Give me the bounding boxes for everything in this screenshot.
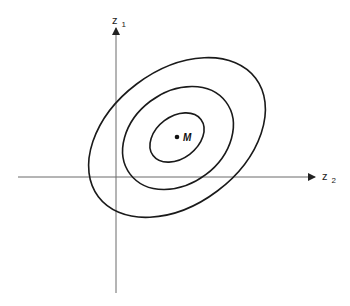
center-label-m: M bbox=[183, 132, 192, 143]
z2-label-sub: 2 bbox=[332, 176, 337, 185]
center-point-dot bbox=[175, 135, 180, 140]
contour-diagram: M z 1 z 2 bbox=[0, 0, 350, 306]
z2-label: z 2 bbox=[322, 170, 337, 185]
z1-label: z 1 bbox=[112, 14, 127, 29]
z2-label-main: z bbox=[322, 170, 328, 182]
z1-label-main: z bbox=[112, 14, 118, 26]
z1-label-sub: 1 bbox=[122, 20, 127, 29]
